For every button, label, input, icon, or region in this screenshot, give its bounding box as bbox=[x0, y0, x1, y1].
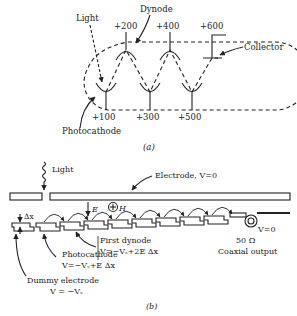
photocathode-pointer-b bbox=[44, 234, 56, 257]
voltage-300: +300 bbox=[136, 112, 159, 122]
dynode-label: Dynode bbox=[140, 4, 173, 14]
dynode-200 bbox=[116, 32, 136, 60]
coaxial-output-label: Coaxial output bbox=[218, 247, 278, 256]
light-label-b: Light bbox=[52, 165, 74, 174]
voltage-500: +500 bbox=[178, 112, 201, 122]
electrode-pointer bbox=[132, 176, 152, 190]
top-electrode-right bbox=[50, 193, 290, 200]
top-electrode-left bbox=[10, 193, 42, 200]
dynode-pointer bbox=[136, 15, 150, 43]
dynode-400 bbox=[160, 32, 180, 60]
dynode-300 bbox=[140, 83, 160, 110]
impedance-label: 50 Ω bbox=[236, 236, 256, 245]
collector-label: Collector bbox=[244, 42, 284, 52]
voltage-400: +400 bbox=[156, 21, 179, 31]
e-field-label: E bbox=[91, 205, 98, 214]
first-dynode-pointer bbox=[76, 232, 96, 247]
light-arrow bbox=[90, 25, 102, 82]
dynode-chain bbox=[12, 216, 228, 231]
h-field-label: H bbox=[118, 204, 127, 213]
dummy-electrode-voltage: V = −Vₛ bbox=[49, 287, 83, 296]
dynode-500 bbox=[182, 83, 202, 110]
delta-x-label: Δx bbox=[24, 212, 34, 221]
photocathode-voltage: V=−Vₛ+E Δx bbox=[61, 261, 116, 270]
photocathode-label-b: Photocathode bbox=[62, 250, 118, 259]
v-zero-label: V=0 bbox=[257, 225, 276, 234]
figure-b bbox=[10, 162, 290, 276]
collector-pointer bbox=[220, 47, 243, 55]
voltage-200: +200 bbox=[114, 21, 137, 31]
caption-b: (b) bbox=[146, 302, 157, 311]
output-plate bbox=[230, 213, 246, 217]
voltage-600: +600 bbox=[200, 21, 223, 31]
voltage-100: +100 bbox=[92, 112, 115, 122]
first-dynode-label: First dynode bbox=[100, 236, 152, 245]
electrode-label: Electrode, V=0 bbox=[155, 171, 217, 180]
caption-a: (a) bbox=[143, 142, 155, 152]
dummy-electrode-label: Dummy electrode bbox=[27, 276, 99, 285]
photomultiplier-diagram: Light Dynode Collector Photocathode +200… bbox=[0, 0, 297, 316]
dummy-pointer bbox=[16, 234, 26, 276]
dynode-100 bbox=[96, 83, 116, 110]
coaxial-connector-inner bbox=[248, 218, 254, 224]
photocathode-label-a: Photocathode bbox=[62, 126, 121, 136]
tube-envelope bbox=[84, 42, 297, 110]
light-wave bbox=[43, 162, 46, 190]
collector bbox=[203, 35, 226, 58]
coaxial-connector-outer bbox=[245, 215, 257, 227]
light-label-a: Light bbox=[76, 13, 99, 23]
